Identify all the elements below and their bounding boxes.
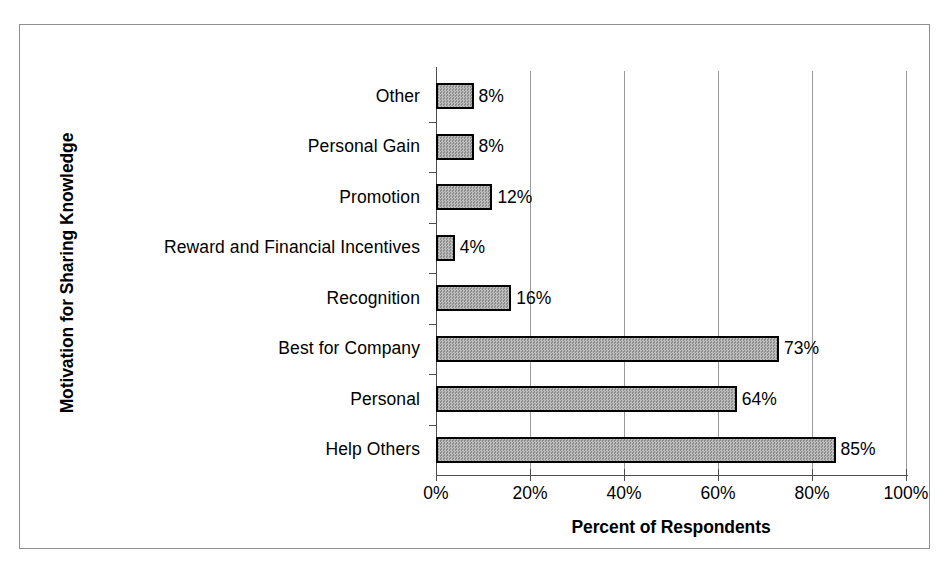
- category-label: Help Others: [326, 425, 420, 476]
- bar-value-label: 16%: [511, 285, 551, 311]
- value-tick: [436, 469, 437, 481]
- value-tick-label: 80%: [794, 483, 829, 504]
- category-tick: [429, 273, 436, 274]
- category-label: Promotion: [339, 172, 420, 223]
- bar-value-label: 8%: [474, 83, 504, 109]
- bar-row: 12%: [436, 172, 906, 223]
- bar-row: 16%: [436, 273, 906, 324]
- value-tick: [906, 469, 907, 481]
- value-tick: [718, 469, 719, 481]
- bar-row: 73%: [436, 324, 906, 375]
- category-label: Personal Gain: [308, 122, 420, 173]
- bar[interactable]: [436, 83, 474, 109]
- bar-row: 8%: [436, 71, 906, 122]
- bar[interactable]: [436, 336, 779, 362]
- category-label: Best for Company: [278, 324, 420, 375]
- category-label: Recognition: [326, 273, 420, 324]
- category-axis-line: [436, 475, 908, 476]
- bar-value-label: 85%: [836, 437, 876, 463]
- bar-value-label: 12%: [492, 184, 532, 210]
- value-tick-label: 40%: [606, 483, 641, 504]
- gridline: [906, 71, 907, 475]
- category-tick: [429, 374, 436, 375]
- category-tick: [429, 172, 436, 173]
- y-axis-title: Motivation for Sharing Knowledge: [50, 71, 84, 475]
- bar-row: 8%: [436, 122, 906, 173]
- category-tick: [429, 223, 436, 224]
- bar-row: 4%: [436, 223, 906, 274]
- category-label: Other: [376, 71, 420, 122]
- plot-area: 8%8%12%4%16%73%64%85%: [436, 71, 906, 475]
- bar-value-label: 73%: [779, 336, 819, 362]
- category-tick: [429, 324, 436, 325]
- value-axis-labels: 0%20%40%60%80%100%: [436, 483, 906, 507]
- bar[interactable]: [436, 437, 836, 463]
- bar-value-label: 64%: [737, 386, 777, 412]
- value-tick-label: 100%: [884, 483, 929, 504]
- bar[interactable]: [436, 235, 455, 261]
- category-label: Reward and Financial Incentives: [164, 223, 420, 274]
- value-tick-label: 20%: [512, 483, 547, 504]
- chart-frame: Motivation for Sharing Knowledge OtherPe…: [19, 24, 930, 549]
- value-tick: [530, 469, 531, 481]
- bar-row: 64%: [436, 374, 906, 425]
- value-tick-label: 0%: [423, 483, 448, 504]
- category-label: Personal: [350, 374, 420, 425]
- bar-value-label: 8%: [474, 134, 504, 160]
- bar[interactable]: [436, 134, 474, 160]
- bar[interactable]: [436, 285, 511, 311]
- value-tick-label: 60%: [700, 483, 735, 504]
- category-tick: [429, 425, 436, 426]
- bar[interactable]: [436, 184, 492, 210]
- category-axis-labels: OtherPersonal GainPromotionReward and Fi…: [80, 71, 428, 475]
- value-tick: [624, 469, 625, 481]
- value-tick: [812, 469, 813, 481]
- category-tick: [429, 122, 436, 123]
- bar-value-label: 4%: [455, 235, 485, 261]
- bar-row: 85%: [436, 425, 906, 476]
- bar[interactable]: [436, 386, 737, 412]
- x-axis-title: Percent of Respondents: [436, 517, 906, 538]
